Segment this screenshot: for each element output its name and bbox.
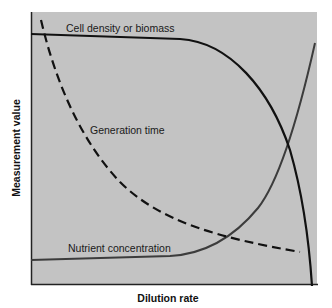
nutrient-concentration-label: Nutrient concentration [68, 242, 171, 254]
chemostat-chart: Cell density or biomass Generation time … [0, 0, 332, 308]
generation-time-label: Generation time [90, 124, 165, 136]
x-axis-label: Dilution rate [137, 292, 198, 304]
cell-density-label: Cell density or biomass [66, 22, 175, 34]
y-axis-label: Measurement value [10, 99, 22, 197]
